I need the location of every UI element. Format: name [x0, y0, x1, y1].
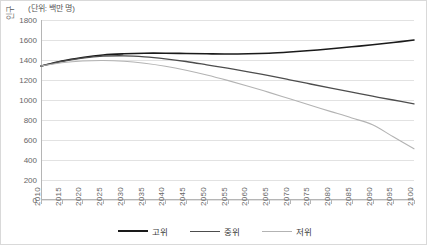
y-tick-label: 1600 [19, 36, 37, 45]
y-tick-label: 1800 [19, 16, 37, 25]
y-tick-label: 1000 [19, 96, 37, 105]
y-tick-label: 200 [24, 176, 37, 185]
legend-swatch-icon [262, 231, 292, 232]
legend-item[interactable]: 중위 [190, 225, 240, 237]
legend-label: 중위 [224, 225, 240, 237]
legend-item[interactable]: 고위 [118, 225, 168, 237]
plot-area: 020040060080010001200140016001800 201020… [41, 20, 414, 200]
series-line [41, 56, 414, 104]
unit-caption: (단위: 백만 명) [28, 2, 75, 13]
legend-swatch-icon [118, 230, 148, 232]
y-tick-label: 600 [24, 136, 37, 145]
y-tick-label: 1400 [19, 56, 37, 65]
x-tick-mark [310, 200, 311, 204]
legend-item[interactable]: 저위 [262, 225, 312, 237]
y-axis-title: 인구 [4, 0, 15, 28]
y-tick-label: 1200 [19, 76, 37, 85]
legend: 고위중위저위 [1, 225, 427, 237]
x-tick-mark [82, 200, 83, 204]
legend-label: 고위 [152, 225, 168, 237]
legend-label: 저위 [296, 225, 312, 237]
y-tick-label: 800 [24, 116, 37, 125]
legend-swatch-icon [190, 231, 220, 232]
population-projection-chart: (단위: 백만 명) 인구 02004006008001000120014001… [0, 0, 427, 245]
series-lines [41, 20, 414, 200]
series-line [41, 40, 414, 66]
series-line [41, 60, 414, 148]
y-tick-label: 400 [24, 156, 37, 165]
